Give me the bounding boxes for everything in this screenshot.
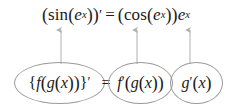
example-lhs-close-paren: ) (93, 5, 99, 26)
example-rhs-function-name: cos (124, 5, 147, 25)
rule-close-brace: } (80, 74, 88, 92)
inner-derivative-function: g (181, 74, 189, 92)
inner-derivative-close-paren: ) (206, 73, 212, 94)
chain-rule-figure: (sin(ex))′=(cos(ex))ex {f(g(x))}′ = f′(g… (0, 0, 232, 106)
chain-rule-equation: {f(g(x))}′ = f′(g(x)) g′(x) (0, 62, 232, 104)
rule-variable: x (61, 74, 68, 92)
example-lhs-base: e (74, 5, 82, 25)
example-lhs-function-name: sin (48, 5, 68, 25)
outer-derivative-inner-function: g (131, 74, 139, 92)
bubble-composite-derivative: {f(g(x))}′ (14, 62, 105, 104)
example-equation: (sin(ex))′=(cos(ex))ex (0, 2, 232, 28)
rule-open-brace: { (29, 74, 37, 92)
outer-derivative-function: f (117, 74, 121, 92)
rule-inner-function: g (47, 74, 55, 92)
outer-derivative-close-paren: ) (158, 73, 164, 94)
inner-derivative-variable: x (198, 74, 205, 92)
example-equals-sign: = (102, 5, 118, 25)
bubble-outer-derivative: f′(g(x)) (108, 62, 173, 104)
example-rhs-base: e (153, 5, 161, 25)
outer-derivative-variable: x (145, 74, 152, 92)
bubble-inner-derivative: g′(x) (170, 62, 223, 104)
